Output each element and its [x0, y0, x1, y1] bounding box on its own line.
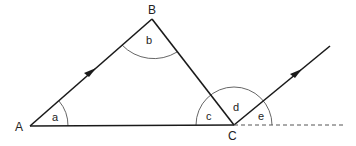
vertex-label-b: B — [148, 3, 156, 17]
angle-label-b: b — [146, 34, 152, 46]
angle-label-a: a — [52, 111, 59, 123]
angle-label-e: e — [258, 110, 264, 122]
triangle-diagram: A B C a b c d e — [0, 0, 356, 146]
angle-label-c: c — [206, 110, 212, 122]
arrow-ab-icon — [84, 68, 96, 77]
vertex-label-a: A — [15, 120, 23, 134]
angle-label-d: d — [233, 101, 239, 113]
side-ac — [30, 125, 234, 126]
ray-parallel — [234, 46, 330, 125]
angle-arc-b — [122, 45, 177, 59]
angle-arc-a — [59, 101, 68, 126]
vertex-label-c: C — [228, 129, 237, 143]
side-bc — [152, 19, 234, 125]
